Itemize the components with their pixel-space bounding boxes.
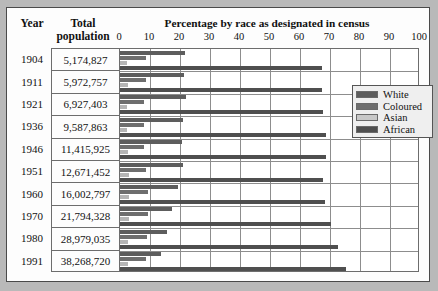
legend-item-african: African	[356, 124, 429, 136]
cell-population: 5,972,757	[51, 70, 119, 92]
chart-frame: Year Total population Percentage by race…	[6, 7, 430, 282]
bar-1951-asian	[120, 173, 129, 177]
cell-population: 16,002,797	[51, 182, 119, 204]
bar-1980-asian	[120, 240, 128, 244]
bar-group-1970	[120, 206, 418, 228]
bar-1960-white	[120, 185, 178, 189]
table-row: 196016,002,797	[13, 182, 119, 204]
legend-label-african: African	[383, 124, 415, 135]
cell-year: 1970	[13, 205, 51, 227]
bar-1904-asian	[120, 61, 127, 65]
plot-area	[119, 48, 419, 272]
bar-1951-coloured	[120, 168, 146, 172]
bar-group-1960	[120, 183, 418, 205]
bar-1991-coloured	[120, 257, 146, 261]
legend-swatch-white	[356, 91, 378, 98]
bar-1946-african	[120, 155, 326, 159]
bar-1991-asian	[120, 262, 128, 266]
bar-1991-african	[120, 267, 346, 271]
cell-population: 12,671,452	[51, 160, 119, 182]
table-row: 197021,794,328	[13, 205, 119, 227]
bar-1936-asian	[120, 128, 127, 132]
bar-group-1991	[120, 251, 418, 273]
bar-1911-coloured	[120, 78, 146, 82]
table-row: 19216,927,403	[13, 93, 119, 115]
legend-item-coloured: Coloured	[356, 101, 429, 113]
chart-legend: WhiteColouredAsianAfrican	[352, 85, 433, 138]
bar-1904-coloured	[120, 56, 146, 60]
x-tick-30: 30	[197, 31, 221, 42]
table-row: 19369,587,863	[13, 115, 119, 137]
x-tick-100: 100	[407, 31, 431, 42]
x-tick-90: 90	[377, 31, 401, 42]
x-tick-20: 20	[167, 31, 191, 42]
x-tick-70: 70	[317, 31, 341, 42]
x-tick-0: 0	[107, 31, 131, 42]
legend-label-white: White	[383, 89, 409, 100]
cell-year: 1980	[13, 227, 51, 249]
table-row: 195112,671,452	[13, 160, 119, 182]
bar-1991-white	[120, 252, 161, 256]
bar-group-1980	[120, 228, 418, 250]
cell-population: 11,415,925	[51, 138, 119, 160]
legend-swatch-african	[356, 126, 378, 133]
table-row: 198028,979,035	[13, 227, 119, 249]
table-row: 194611,415,925	[13, 138, 119, 160]
cell-population: 6,927,403	[51, 93, 119, 115]
cell-population: 21,794,328	[51, 205, 119, 227]
table-row: 199138,268,720	[13, 250, 119, 272]
table-row: 19115,972,757	[13, 70, 119, 92]
cell-year: 1936	[13, 115, 51, 137]
bar-1970-asian	[120, 217, 129, 221]
cell-year: 1921	[13, 93, 51, 115]
bar-1911-african	[120, 88, 322, 92]
cell-population: 28,979,035	[51, 227, 119, 249]
cell-population: 38,268,720	[51, 250, 119, 272]
bar-1970-african	[120, 222, 331, 226]
x-tick-60: 60	[287, 31, 311, 42]
bar-1951-white	[120, 163, 183, 167]
bar-1921-african	[120, 110, 323, 114]
bar-1936-african	[120, 133, 326, 137]
bar-1970-coloured	[120, 212, 148, 216]
bar-1960-african	[120, 200, 325, 204]
bar-1911-asian	[120, 83, 128, 87]
cell-year: 1946	[13, 138, 51, 160]
cell-population: 5,174,827	[51, 48, 119, 70]
cell-year: 1904	[13, 48, 51, 70]
table-row: 19045,174,827	[13, 48, 119, 70]
header-total-line1: Total	[49, 17, 117, 30]
bar-group-1904	[120, 49, 418, 71]
x-tick-50: 50	[257, 31, 281, 42]
chart-title: Percentage by race as designated in cens…	[117, 17, 417, 29]
bar-1904-african	[120, 66, 322, 70]
bar-1946-coloured	[120, 145, 144, 149]
x-tick-10: 10	[137, 31, 161, 42]
bar-1936-coloured	[120, 123, 144, 127]
data-table: 19045,174,82719115,972,75719216,927,4031…	[13, 48, 119, 272]
bar-1921-coloured	[120, 100, 144, 104]
legend-swatch-coloured	[356, 103, 378, 110]
bar-1921-white	[120, 95, 186, 99]
x-tick-40: 40	[227, 31, 251, 42]
cell-year: 1960	[13, 182, 51, 204]
bar-1946-asian	[120, 150, 128, 154]
bar-group-1946	[120, 139, 418, 161]
bar-1970-white	[120, 207, 172, 211]
bar-1980-coloured	[120, 235, 147, 239]
legend-swatch-asian	[356, 114, 378, 121]
legend-label-asian: Asian	[383, 112, 408, 123]
bar-1960-asian	[120, 195, 129, 199]
x-tick-80: 80	[347, 31, 371, 42]
legend-item-white: White	[356, 89, 429, 101]
bar-1904-white	[120, 51, 185, 55]
header-year: Year	[13, 17, 51, 29]
bar-1951-african	[120, 178, 323, 182]
cell-year: 1951	[13, 160, 51, 182]
cell-year: 1911	[13, 70, 51, 92]
bar-1911-white	[120, 73, 184, 77]
bar-1946-white	[120, 140, 182, 144]
legend-item-asian: Asian	[356, 112, 429, 124]
cell-population: 9,587,863	[51, 115, 119, 137]
bar-1921-asian	[120, 105, 127, 109]
